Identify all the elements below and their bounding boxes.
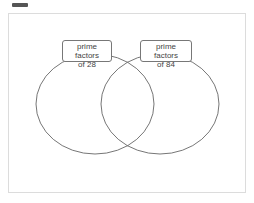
venn-diagram (0, 0, 254, 203)
set-label-28-line1: prime factors (65, 42, 109, 60)
set-circle-84 (101, 54, 219, 154)
set-label-28: prime factors of 28 (62, 40, 112, 62)
set-label-84: prime factors of 84 (140, 40, 192, 62)
set-label-84-line2: of 84 (143, 60, 189, 69)
set-label-28-line2: of 28 (65, 60, 109, 69)
set-label-84-line1: prime factors (143, 42, 189, 60)
set-circle-28 (36, 54, 154, 154)
